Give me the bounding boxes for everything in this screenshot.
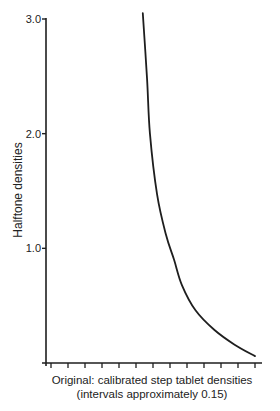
y-ticks: 1.02.03.0	[26, 13, 46, 254]
y-tick-label: 2.0	[26, 128, 41, 140]
y-tick-label: 1.0	[26, 242, 41, 254]
y-tick-label: 3.0	[26, 13, 41, 25]
x-axis-title: Original: calibrated step tablet densiti…	[0, 373, 280, 387]
axes	[42, 18, 262, 366]
x-axis-title-note: (intervals approximately 0.15)	[0, 387, 280, 401]
y-axis-title: Halftone densities	[11, 142, 25, 237]
chart: 1.02.03.0 Halftone densities	[0, 0, 280, 411]
x-axis-title-block: Original: calibrated step tablet densiti…	[0, 373, 280, 401]
series-line-halftone-density	[143, 13, 255, 356]
